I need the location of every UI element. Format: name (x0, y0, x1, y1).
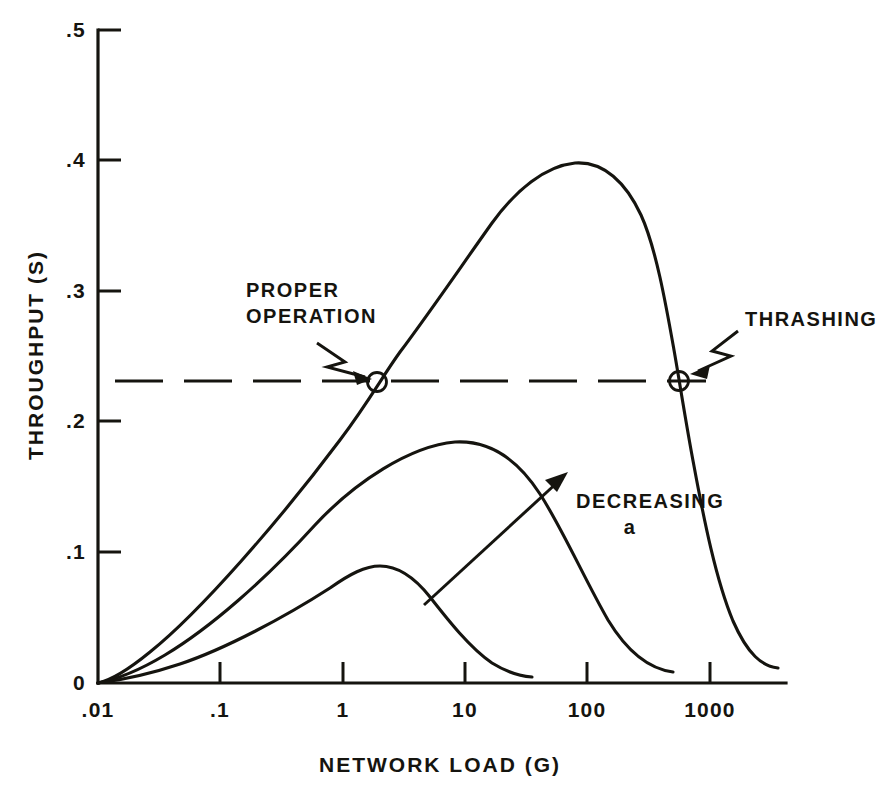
annotation-decreasing-line1: DECREASING (576, 490, 724, 512)
annotation-decreasing-a: DECREASING a (576, 489, 724, 540)
curve-largest-a (98, 566, 532, 683)
x-tick-label-3: 10 (452, 698, 478, 722)
x-tick-label-5: 1000 (684, 698, 736, 722)
y-tick-label-4: .4 (40, 148, 86, 172)
thrashing-leader (690, 331, 738, 379)
x-tick-label-1: .1 (210, 698, 230, 722)
x-axis-ticks (220, 662, 710, 683)
annotation-proper-operation: PROPER OPERATION (246, 278, 377, 329)
proper-operation-leader (317, 343, 372, 385)
decreasing-a-arrow (424, 472, 568, 605)
curve-middle-a (98, 442, 673, 683)
x-tick-label-2: 1 (337, 698, 350, 722)
y-axis-title: THROUGHPUT (S) (24, 250, 48, 460)
x-tick-label-0: .01 (82, 698, 115, 722)
annotation-thrashing: THRASHING (745, 307, 877, 333)
y-axis-ticks (98, 30, 121, 552)
annotation-decreasing-line2: a (576, 515, 724, 541)
x-tick-label-4: 100 (568, 698, 607, 722)
x-axis-title: NETWORK LOAD (G) (319, 753, 561, 777)
annotation-proper-operation-line1: PROPER (246, 279, 339, 301)
y-tick-label-5: .5 (40, 18, 86, 42)
y-tick-label-1: .1 (40, 540, 86, 564)
annotation-proper-operation-line2: OPERATION (246, 304, 377, 330)
y-tick-label-0: 0 (40, 671, 86, 695)
